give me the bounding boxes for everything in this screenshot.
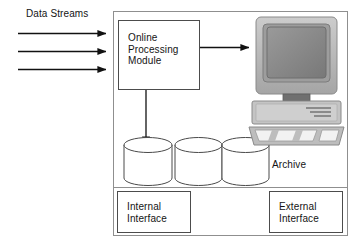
online-processing-module-box[interactable]: Online Processing Module — [118, 20, 200, 90]
archive-label: Archive — [272, 159, 306, 171]
internal-interface-box[interactable]: Internal Interface — [117, 191, 191, 233]
external-interface-box[interactable]: External Interface — [269, 191, 343, 233]
internal-interface-label: Internal Interface — [127, 201, 167, 224]
online-processing-module-label: Online Processing Module — [128, 32, 178, 67]
interface-row-divider — [113, 187, 348, 188]
system-architecture-diagram: Data Streams Online Processing Module Ar… — [0, 0, 361, 247]
data-streams-label: Data Streams — [26, 8, 88, 20]
external-interface-label: External Interface — [279, 201, 319, 224]
